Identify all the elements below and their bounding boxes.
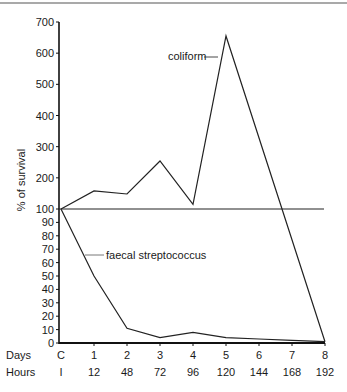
x-tick-label-days: 1 (91, 349, 97, 361)
faecal-streptococcus-line (61, 209, 325, 342)
x-tick-label-days: 4 (190, 349, 196, 361)
y-tick-label: 70 (42, 243, 54, 255)
y-tick-label: 400 (36, 110, 54, 122)
y-tick-label: 40 (42, 283, 54, 295)
y-tick-label: 10 (42, 324, 54, 336)
x-tick-label-hours: 192 (316, 366, 334, 378)
y-axis-title: % of survival (15, 149, 27, 211)
faecal-annotation: faecal streptococcus (85, 249, 207, 261)
y-tick-label: 90 (42, 216, 54, 228)
survival-chart: 0102030405060708090100200300400500600700… (0, 0, 347, 392)
x-tick-label-hours: 72 (154, 366, 166, 378)
y-tick-label: 200 (36, 172, 54, 184)
x-tick-label-hours: 168 (283, 366, 301, 378)
y-tick-label: 600 (36, 47, 54, 59)
x-tick-label-hours: 120 (217, 366, 235, 378)
y-tick-label: 30 (42, 297, 54, 309)
y-tick-label: 0 (48, 337, 54, 349)
x-tick-label-hours: 12 (88, 366, 100, 378)
x-tick-label-hours: 96 (187, 366, 199, 378)
y-tick-label: 20 (42, 310, 54, 322)
x-tick-label-days: 7 (289, 349, 295, 361)
y-tick-label: 100 (36, 203, 54, 215)
x-tick-label-hours: 48 (121, 366, 133, 378)
x-tick-label-hours: 144 (250, 366, 268, 378)
coliform-annotation: coliform (168, 50, 218, 62)
y-tick-label: 80 (42, 230, 54, 242)
y-tick-label: 60 (42, 257, 54, 269)
x-tick-label-days: 3 (157, 349, 163, 361)
faecal-label: faecal streptococcus (106, 249, 207, 261)
axes (56, 22, 325, 346)
hours-row-label: Hours (6, 366, 36, 378)
y-tick-label: 700 (36, 16, 54, 28)
x-tick-label-days: 6 (256, 349, 262, 361)
coliform-label: coliform (168, 50, 207, 62)
x-tick-label-days: 8 (322, 349, 328, 361)
series-lines (61, 36, 325, 342)
x-tick-label-days: C (57, 349, 65, 361)
coliform-line (61, 36, 325, 342)
y-tick-label: 300 (36, 141, 54, 153)
y-tick-label: 50 (42, 270, 54, 282)
x-tick-label-hours: I (59, 366, 62, 378)
x-tick-label-days: 5 (223, 349, 229, 361)
y-tick-label: 500 (36, 78, 54, 90)
x-tick-label-days: 2 (124, 349, 130, 361)
days-row-label: Days (6, 349, 32, 361)
tick-labels: 0102030405060708090100200300400500600700… (36, 16, 335, 378)
